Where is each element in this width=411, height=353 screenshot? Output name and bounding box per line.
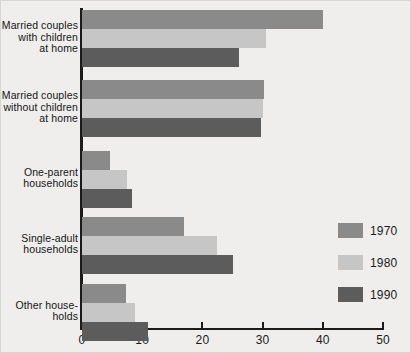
bar-chart-plot-area: 01020304050 Married couples with childre… bbox=[0, 0, 411, 353]
x-axis-tick bbox=[262, 322, 264, 330]
bar-1970 bbox=[82, 217, 184, 236]
chart-frame: 01020304050 Married couples with childre… bbox=[0, 0, 411, 353]
legend-item[interactable]: 1990 bbox=[338, 286, 398, 303]
bar-1980 bbox=[82, 29, 266, 48]
bar-1970 bbox=[82, 151, 110, 170]
category-label: One-parent households bbox=[23, 167, 78, 190]
legend-item[interactable]: 1980 bbox=[338, 254, 398, 271]
category-label: Married couples without children at home bbox=[2, 90, 78, 125]
bar-1970 bbox=[82, 80, 264, 99]
legend-swatch bbox=[338, 255, 363, 270]
legend-item[interactable]: 1970 bbox=[338, 222, 398, 239]
x-axis-tick bbox=[322, 322, 324, 330]
category-label: Single-adult households bbox=[21, 233, 78, 256]
bar-1990 bbox=[82, 322, 148, 341]
bar-1980 bbox=[82, 99, 263, 118]
legend-label: 1990 bbox=[370, 288, 398, 302]
bar-1970 bbox=[82, 10, 323, 29]
bar-1980 bbox=[82, 303, 135, 322]
bar-1980 bbox=[82, 236, 217, 255]
legend-swatch bbox=[338, 223, 363, 238]
bar-1990 bbox=[82, 118, 261, 137]
legend-label: 1970 bbox=[370, 224, 398, 238]
legend-label: 1980 bbox=[370, 256, 398, 270]
category-label: Married couples with children at home bbox=[2, 20, 78, 55]
category-label: Other house- holds bbox=[16, 300, 78, 323]
x-axis-tick bbox=[382, 322, 384, 330]
x-axis-tick-label: 40 bbox=[316, 333, 330, 347]
bar-1990 bbox=[82, 189, 132, 208]
legend-swatch bbox=[338, 287, 363, 302]
x-axis-tick-label: 30 bbox=[256, 333, 270, 347]
chart-legend: 197019801990 bbox=[338, 222, 398, 318]
bar-1990 bbox=[82, 48, 239, 67]
x-axis-tick-label: 20 bbox=[196, 333, 210, 347]
x-axis-tick-label: 50 bbox=[376, 333, 390, 347]
bar-1980 bbox=[82, 170, 127, 189]
x-axis-tick bbox=[201, 322, 203, 330]
bar-1970 bbox=[82, 284, 126, 303]
bar-1990 bbox=[82, 255, 233, 274]
